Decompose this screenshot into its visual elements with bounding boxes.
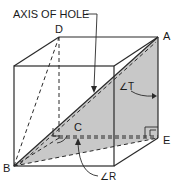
label-angle-t: ∠T: [119, 81, 134, 92]
label-axis-of-hole: AXIS OF HOLE: [13, 8, 89, 20]
axis-callout-leader: [86, 14, 97, 88]
label-e: E: [163, 134, 170, 146]
label-c: C: [74, 121, 82, 133]
label-b: B: [3, 162, 10, 174]
label-a: A: [163, 30, 171, 42]
top-left-edge: [14, 37, 59, 66]
label-angle-r: ∠R: [100, 171, 116, 182]
label-d: D: [55, 23, 63, 35]
cube-diagram: AXIS OF HOLE D A C E B ∠T ∠R: [0, 0, 179, 188]
cube-diagram-svg: AXIS OF HOLE D A C E B ∠T ∠R: [0, 0, 179, 188]
